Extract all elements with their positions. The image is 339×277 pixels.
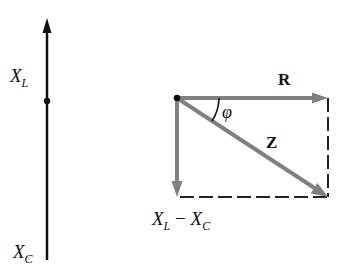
- impedance-diagram: [0, 0, 339, 277]
- label-r: R: [278, 70, 290, 90]
- label-xc-main: X: [13, 241, 25, 262]
- phase-angle-arc: [212, 98, 219, 121]
- impedance-vector: [177, 98, 328, 197]
- axis-origin-dot: [44, 98, 50, 104]
- reactance-vector: [172, 98, 183, 197]
- label-phi: φ: [222, 102, 232, 123]
- label-xl: XL: [10, 65, 28, 87]
- label-b-main: X: [191, 208, 203, 229]
- label-xl-main: X: [10, 65, 22, 86]
- label-xl-minus-xc: XL − XC: [152, 208, 210, 230]
- label-xc: XC: [13, 241, 33, 263]
- label-a-sub: L: [164, 219, 171, 233]
- axis-arrowhead-icon: [43, 18, 52, 33]
- label-b-sub: C: [202, 219, 210, 233]
- label-a-main: X: [152, 208, 164, 229]
- label-xl-sub: L: [22, 76, 29, 90]
- label-xc-sub: C: [25, 252, 33, 266]
- reactance-axis: [43, 18, 52, 260]
- resistance-vector: [177, 93, 328, 104]
- label-minus: −: [170, 208, 190, 229]
- label-z: Z: [266, 133, 277, 153]
- phasor-origin-dot: [174, 95, 181, 102]
